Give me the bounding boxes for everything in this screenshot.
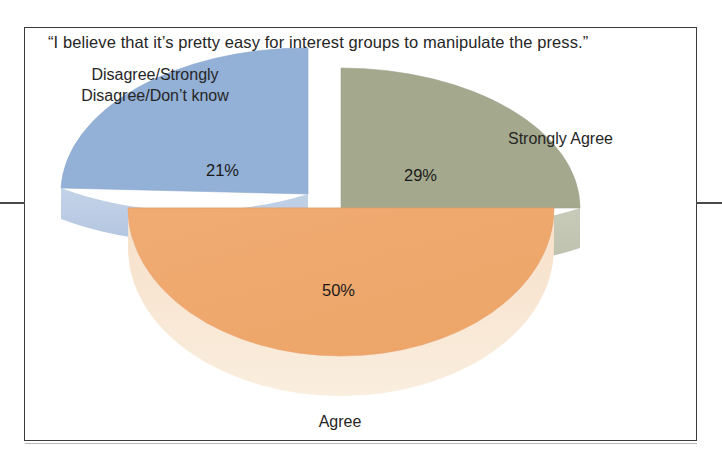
label-disagree-line2: Disagree/Don’t know — [30, 85, 280, 106]
chart-page: “I believe that it’s pretty easy for int… — [0, 0, 722, 469]
label-disagree: Disagree/Strongly Disagree/Don’t know — [30, 64, 280, 106]
slice-value-strongly-agree: 29% — [404, 166, 437, 185]
label-agree: Agree — [265, 413, 415, 431]
slice-value-agree: 50% — [322, 281, 355, 300]
slice-agree — [128, 208, 554, 396]
slice-value-disagree: 21% — [206, 161, 239, 180]
label-strongly-agree: Strongly Agree — [508, 130, 613, 148]
chart-title: “I believe that it’s pretty easy for int… — [48, 33, 668, 52]
label-disagree-line1: Disagree/Strongly — [30, 64, 280, 85]
